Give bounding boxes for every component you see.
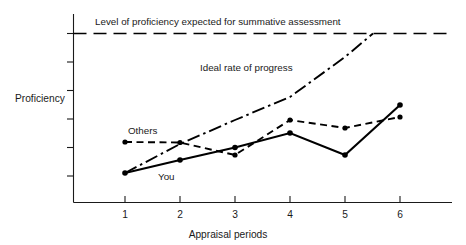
data-point-others-3 [232,152,237,157]
data-point-you-3 [232,145,238,151]
x-tick-label-4: 4 [287,209,293,220]
others-series-label: Others [128,125,158,136]
x-tick-labels: 1 2 3 4 5 6 [122,209,403,220]
summative-threshold-label: Level of proficiency expected for summat… [95,16,341,27]
series-others-line [125,117,400,155]
data-point-others-2 [177,140,182,145]
x-axis-title: Appraisal periods [189,229,268,240]
data-point-you-1 [122,170,128,176]
series-you-line [125,105,400,173]
data-point-you-6 [397,102,403,108]
x-axis-ticks [125,196,400,203]
x-tick-label-2: 2 [177,209,183,220]
proficiency-progress-chart: 1 2 3 4 5 6 Appraisal periods Proficienc… [0,0,466,245]
you-series-label: You [158,171,175,182]
x-tick-label-3: 3 [232,209,238,220]
data-point-others-4 [287,117,292,122]
y-axis-title: Proficiency [15,93,66,104]
ideal-rate-label: Ideal rate of progress [200,62,293,73]
series-others-markers [122,114,402,157]
data-point-others-1 [122,139,127,144]
x-tick-label-1: 1 [122,209,128,220]
data-point-you-2 [177,157,183,163]
chart-canvas: 1 2 3 4 5 6 Appraisal periods Proficienc… [0,0,466,245]
x-tick-label-6: 6 [397,209,403,220]
x-tick-label-5: 5 [342,209,348,220]
data-point-others-5 [342,125,347,130]
data-point-you-5 [342,152,348,158]
y-axis-ticks [67,34,74,177]
data-point-others-6 [397,114,402,119]
data-point-you-4 [287,130,293,136]
